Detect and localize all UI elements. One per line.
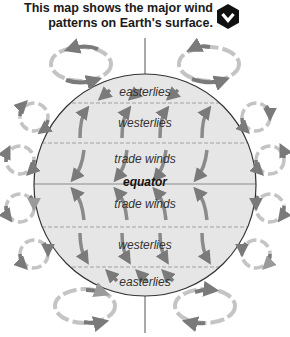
circulation-cell-left-2	[6, 146, 34, 174]
circulation-cell-left-4	[20, 240, 48, 268]
label-westerlies-north: westerlies	[118, 116, 171, 130]
circulation-cell-south-polar-right	[175, 289, 235, 323]
circulation-cell-right-3	[256, 194, 284, 222]
circulation-cell-right-4	[242, 240, 270, 268]
label-trade-winds-south: trade winds	[114, 197, 175, 211]
circulation-cell-north-polar-right	[179, 46, 239, 82]
circulation-cell-right-2	[256, 146, 284, 174]
wind-pattern-diagram: easterlies westerlies trade winds equato…	[0, 0, 290, 337]
label-equator: equator	[123, 175, 168, 189]
label-trade-winds-north: trade winds	[114, 152, 175, 166]
circulation-cell-left-3	[6, 194, 34, 222]
circulation-cell-left-1	[20, 103, 48, 131]
circulation-cell-south-polar-left	[55, 289, 115, 323]
label-westerlies-south: westerlies	[118, 238, 171, 252]
circulation-cell-north-polar-left	[51, 47, 111, 83]
circulation-cell-right-1	[242, 103, 270, 131]
label-easterlies-south: easterlies	[119, 275, 170, 289]
label-easterlies-north: easterlies	[119, 85, 170, 99]
